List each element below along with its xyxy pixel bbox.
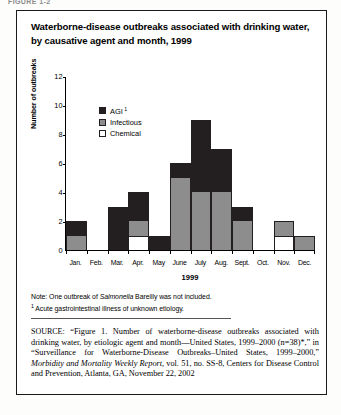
bar-column — [294, 77, 315, 250]
x-tick-mark — [87, 250, 108, 255]
y-axis-label: Number of outbreaks — [29, 120, 38, 129]
note-suffix: Bareilly was not included. — [133, 293, 211, 300]
x-tick-mark — [191, 250, 212, 255]
bar-segment-agi — [191, 120, 212, 193]
legend-label-infectious: Infectious — [110, 118, 142, 127]
y-tick-mark — [63, 222, 67, 223]
legend-swatch-infectious — [99, 119, 106, 126]
x-axis-tick-labels: Jan.Feb.Mar.Apr.MayJuneJulyAug.Sept.Oct.… — [65, 259, 315, 266]
y-tick-mark — [63, 193, 67, 194]
note-italic-term: Salmonella — [100, 293, 134, 300]
figure-frame: Waterborne-disease outbreaks associated … — [16, 10, 327, 395]
bar-segment-agi — [211, 149, 232, 193]
bar-segment-infectious — [170, 178, 191, 251]
y-tick-mark — [63, 77, 67, 78]
legend-item-agi: AGI 1 — [99, 105, 142, 117]
bar-column — [149, 77, 170, 250]
source-text: “Figure 1. Number of waterborne-disease … — [31, 327, 319, 357]
note-prefix: Note: One outbreak of — [31, 293, 100, 300]
x-tick-mark — [128, 250, 149, 255]
bar-column — [87, 77, 108, 250]
x-tick-label: Aug. — [211, 259, 232, 266]
legend-label-agi: AGI 1 — [110, 106, 127, 116]
figure-source: SOURCE: “Figure 1. Number of waterborne-… — [31, 327, 319, 380]
x-axis-label: 1999 — [65, 273, 315, 282]
bar-segment-infectious — [191, 192, 212, 250]
x-tick-label: Feb. — [86, 259, 107, 266]
bar-column — [191, 77, 212, 250]
y-tick-label: 10 — [54, 102, 62, 109]
x-tick-label: Apr. — [127, 259, 148, 266]
bar-segment-agi — [170, 163, 191, 178]
bar-column — [232, 77, 253, 250]
x-tick-mark — [108, 250, 129, 255]
bar-segment-infectious — [211, 192, 232, 250]
bar-segment-infectious — [274, 221, 295, 236]
bar-column — [253, 77, 274, 250]
bar-segment-infectious — [128, 221, 149, 236]
bar-column — [128, 77, 149, 250]
chart-area: Number of outbreaks 024681012 Jan.Feb.Ma… — [31, 73, 319, 288]
bar-segment-chemical — [274, 236, 295, 251]
bar-segment-agi — [66, 221, 87, 236]
footnote-text: Acute gastrointestinal illness of unknow… — [34, 305, 184, 312]
plot-region: 024681012 — [65, 77, 315, 251]
x-tick-label: Nov. — [273, 259, 294, 266]
x-tick-marks — [66, 250, 315, 255]
x-tick-label: Mar. — [107, 259, 128, 266]
bar-column — [108, 77, 129, 250]
figure-page: FIGURE 1-2 Waterborne-disease outbreaks … — [0, 0, 341, 415]
chart-legend: AGI 1InfectiousChemical — [99, 105, 142, 140]
x-tick-mark — [232, 250, 253, 255]
x-tick-mark — [294, 250, 315, 255]
note-line: Note: One outbreak of Salmonella Bareill… — [31, 292, 316, 302]
x-tick-label: July — [190, 259, 211, 266]
legend-swatch-chemical — [99, 130, 106, 137]
y-tick-mark — [63, 106, 67, 107]
bar-segment-infectious — [232, 221, 253, 250]
footnote-line: 1 Acute gastrointestinal illness of unkn… — [31, 302, 316, 314]
legend-item-infectious: Infectious — [99, 117, 142, 129]
bar-segment-agi — [232, 207, 253, 222]
y-tick-label: 0 — [58, 247, 62, 254]
x-tick-label: Oct. — [252, 259, 273, 266]
legend-item-chemical: Chemical — [99, 128, 142, 140]
x-tick-mark — [66, 250, 87, 255]
bar-column — [274, 77, 295, 250]
bar-segment-agi — [149, 236, 170, 251]
x-tick-mark — [253, 250, 274, 255]
clipped-header-text: FIGURE 1-2 — [8, 0, 51, 5]
bar-segment-agi — [108, 207, 129, 251]
y-tick-mark — [63, 135, 67, 136]
bar-segment-infectious — [294, 236, 315, 251]
figure-title: Waterborne-disease outbreaks associated … — [31, 20, 316, 47]
bar-segment-infectious — [66, 236, 87, 251]
x-tick-label: May — [148, 259, 169, 266]
bar-group — [66, 77, 315, 250]
x-tick-label: Jan. — [65, 259, 86, 266]
bar-column — [211, 77, 232, 250]
legend-label-chemical: Chemical — [110, 129, 141, 138]
legend-swatch-agi — [99, 107, 106, 114]
bar-segment-chemical — [128, 236, 149, 251]
bar-column — [66, 77, 87, 250]
x-tick-label: Sept. — [232, 259, 253, 266]
y-tick-label: 12 — [54, 73, 62, 80]
x-tick-mark — [211, 250, 232, 255]
notes-source-divider — [31, 318, 231, 319]
bar-column — [170, 77, 191, 250]
x-tick-label: June — [169, 259, 190, 266]
source-italic-title: Morbidity and Mortality Weekly Report, — [31, 359, 164, 368]
figure-notes: Note: One outbreak of Salmonella Bareill… — [31, 292, 316, 313]
source-label: SOURCE: — [31, 327, 65, 336]
legend-footnote-marker: 1 — [123, 106, 127, 112]
x-tick-mark — [149, 250, 170, 255]
y-tick-mark — [63, 164, 67, 165]
bar-segment-agi — [128, 192, 149, 221]
x-tick-mark — [274, 250, 295, 255]
x-tick-label: Dec. — [294, 259, 315, 266]
x-tick-mark — [170, 250, 191, 255]
